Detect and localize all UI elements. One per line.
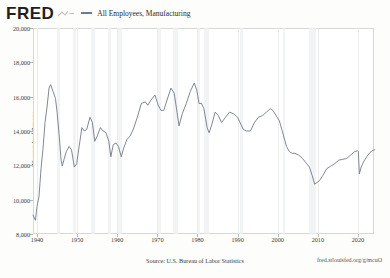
x-tick-label: 1990 <box>231 236 243 243</box>
fred-squiggle-icon <box>58 9 74 18</box>
y-tick-mark <box>30 234 33 235</box>
fred-url: fred.stlouisfed.org/g/mcuO <box>317 257 382 263</box>
y-tick-label: 10,000 <box>2 196 30 203</box>
x-tick-label: 1980 <box>191 236 203 243</box>
chart-header: FRED All Employees, Manufacturing <box>0 0 390 26</box>
legend-swatch-series-0 <box>81 12 92 14</box>
x-tick-label: 1970 <box>151 236 163 243</box>
chart-legend: All Employees, Manufacturing <box>81 9 190 18</box>
fred-logo: FRED <box>6 5 54 22</box>
plot-area: 20,00018,00016,00014,00012,00010,0008,00… <box>33 28 374 234</box>
fred-chart: FRED All Employees, Manufacturing Thousa… <box>0 0 390 278</box>
x-tick-label: 1960 <box>111 236 123 243</box>
y-tick-label: 12,000 <box>2 162 30 169</box>
y-tick-label: 18,000 <box>2 59 30 66</box>
y-tick-label: 14,000 <box>2 128 30 135</box>
y-tick-label: 16,000 <box>2 93 30 100</box>
x-tick-label: 2000 <box>272 236 284 243</box>
legend-label-series-0: All Employees, Manufacturing <box>97 9 190 18</box>
x-tick-label: 1950 <box>71 236 83 243</box>
series-line-all-employees-manufacturing <box>33 28 374 234</box>
y-tick-label: 20,000 <box>2 25 30 32</box>
y-tick-label: 8,000 <box>2 231 30 238</box>
x-tick-label: 2020 <box>352 236 364 243</box>
x-tick-label: 1940 <box>31 236 43 243</box>
x-tick-label: 2010 <box>312 236 324 243</box>
